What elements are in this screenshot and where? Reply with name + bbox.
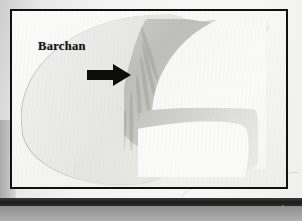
figure-page: Barchan xyxy=(0,0,302,221)
photo-canvas: Barchan xyxy=(12,11,286,187)
photo-grain-overlay xyxy=(12,11,286,187)
page-speck xyxy=(52,212,54,214)
page-under-shadow xyxy=(0,206,302,221)
wind-direction-arrow-icon xyxy=(87,64,131,86)
page-title: Barchan xyxy=(38,39,86,54)
photo-frame: Barchan xyxy=(10,9,288,189)
page-speck xyxy=(282,205,284,207)
